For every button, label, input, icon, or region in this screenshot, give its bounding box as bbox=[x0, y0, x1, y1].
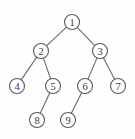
tree-node-4[interactable]: 4 bbox=[10, 79, 25, 94]
tree-edge-1-3 bbox=[77, 27, 95, 45]
tree-node-8[interactable]: 8 bbox=[30, 113, 45, 128]
tree-node-6[interactable]: 6 bbox=[78, 79, 93, 94]
tree-node-circle-1 bbox=[65, 15, 80, 30]
tree-edge-1-2 bbox=[46, 27, 66, 46]
tree-edge-3-7 bbox=[103, 58, 114, 80]
tree-edge-5-8 bbox=[40, 93, 50, 113]
edge-layer bbox=[21, 27, 114, 113]
tree-node-circle-4 bbox=[10, 79, 25, 94]
tree-canvas: 123456789 bbox=[0, 0, 135, 139]
tree-edge-3-6 bbox=[88, 58, 97, 79]
tree-node-9[interactable]: 9 bbox=[61, 113, 76, 128]
tree-edge-2-4 bbox=[21, 57, 37, 80]
tree-node-3[interactable]: 3 bbox=[93, 44, 108, 59]
tree-node-7[interactable]: 7 bbox=[111, 79, 126, 94]
tree-node-5[interactable]: 5 bbox=[46, 79, 61, 94]
tree-edge-6-9 bbox=[71, 93, 81, 114]
tree-node-circle-2 bbox=[34, 44, 49, 59]
tree-node-circle-5 bbox=[46, 79, 61, 94]
binary-tree-figure: 123456789 bbox=[0, 0, 135, 139]
tree-node-circle-3 bbox=[93, 44, 108, 59]
tree-node-circle-8 bbox=[30, 113, 45, 128]
tree-node-circle-9 bbox=[61, 113, 76, 128]
tree-node-1[interactable]: 1 bbox=[65, 15, 80, 30]
tree-node-circle-7 bbox=[111, 79, 126, 94]
tree-node-circle-6 bbox=[78, 79, 93, 94]
tree-node-2[interactable]: 2 bbox=[34, 44, 49, 59]
tree-edge-2-5 bbox=[43, 58, 50, 79]
